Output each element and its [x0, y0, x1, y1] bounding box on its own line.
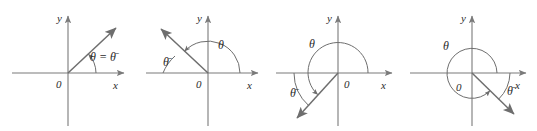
y-axis-label: y [56, 12, 62, 24]
diagram-panel-quadrant-2: x y 0 θ θ̄ [134, 0, 268, 131]
y-axis-label: y [460, 12, 466, 24]
theta-label: θ [309, 37, 315, 51]
reference-angle-arc [294, 73, 309, 106]
diagram-panel-quadrant-1: x y 0 θ = θ̄ [0, 0, 134, 131]
origin-label: 0 [456, 81, 462, 93]
origin-label: 0 [344, 78, 350, 90]
x-axis-label: x [380, 79, 386, 91]
theta-equals-reference-label: θ = θ̄ [90, 50, 119, 64]
reference-angle-label: θ̄ [163, 55, 172, 69]
origin-label: 0 [56, 78, 62, 90]
theta-arc [185, 41, 240, 73]
reference-angle-label: θ̄ [290, 86, 299, 100]
diagram-panel-quadrant-3: x y 0 θ θ̄ [268, 0, 402, 131]
x-axis-label: x [112, 79, 118, 91]
x-axis-label: x [514, 79, 520, 91]
diagram-panel-quadrant-4: x y 0 θ θ̄ [402, 0, 537, 131]
origin-label: 0 [196, 78, 202, 90]
y-axis-label: y [196, 12, 202, 24]
theta-label: θ [443, 39, 449, 53]
theta-label: θ [218, 38, 224, 52]
reference-angle-figure-row: x y 0 θ = θ̄ [0, 0, 537, 131]
terminal-ray [297, 73, 338, 118]
y-axis-label: y [326, 12, 332, 24]
x-axis-label: x [246, 79, 252, 91]
